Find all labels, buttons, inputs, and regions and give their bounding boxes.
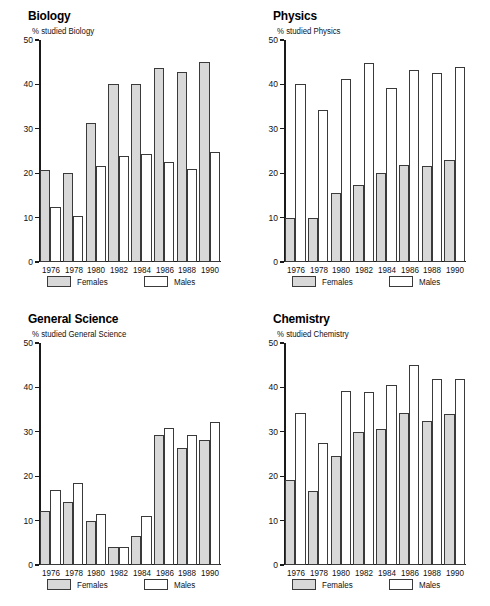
panel-general-science: General Science % studied General Scienc…: [0, 303, 245, 606]
bar-females-1976: [40, 170, 50, 262]
legend-item-females: Females: [47, 579, 110, 590]
y-tick-label: 0: [28, 561, 33, 570]
bar-males-1976: [50, 207, 60, 263]
legend-swatch-females-icon: [47, 579, 71, 590]
bar-females-1988: [177, 448, 187, 565]
legend-physics: Females Males: [292, 276, 441, 287]
bar-females-1976: [285, 480, 295, 565]
x-tick-label-1984: 1984: [133, 266, 151, 275]
chart-subtitle-biology: % studied Biology: [32, 26, 94, 36]
x-tick-label-1988: 1988: [178, 266, 196, 275]
y-tick-label: 40: [269, 383, 278, 392]
y-tick-label: 40: [24, 383, 33, 392]
bar-group-1986: [153, 40, 176, 262]
bar-males-1988: [432, 73, 442, 262]
panel-physics: Physics % studied Physics 19761978198019…: [245, 0, 490, 303]
y-tick-label: 20: [269, 169, 278, 178]
bar-females-1982: [108, 84, 118, 262]
bar-males-1986: [164, 162, 174, 262]
bar-group-1986: [398, 40, 421, 262]
legend-swatch-females-icon: [292, 579, 316, 590]
bar-males-1986: [164, 428, 174, 565]
bar-males-1980: [341, 391, 351, 565]
bar-males-1984: [386, 385, 396, 565]
y-tick-mark: [35, 564, 39, 565]
bar-group-1982: [352, 40, 375, 262]
x-tick-label-1988: 1988: [178, 569, 196, 578]
bar-group-1984: [130, 343, 153, 565]
y-tick-mark: [35, 342, 39, 343]
bar-males-1976: [295, 84, 305, 262]
bar-males-1978: [318, 110, 328, 262]
x-tick-label-1978: 1978: [65, 569, 83, 578]
bar-females-1986: [399, 165, 409, 262]
x-tick-label-1988: 1988: [423, 569, 441, 578]
bar-males-1988: [187, 169, 197, 262]
y-tick-label: 30: [269, 125, 278, 134]
x-tick-label-1982: 1982: [355, 569, 373, 578]
legend-item-males: Males: [144, 276, 197, 287]
y-tick-mark: [280, 128, 284, 129]
x-tick-label-1976: 1976: [42, 569, 60, 578]
bar-females-1980: [86, 123, 96, 262]
x-tick-label-1976: 1976: [42, 266, 60, 275]
y-tick-mark: [280, 520, 284, 521]
plot-area-biology: 19761978198019821984198619881990 0102030…: [39, 40, 221, 262]
bar-females-1976: [40, 511, 50, 565]
figure-page: Biology % studied Biology 19761978198019…: [0, 0, 490, 606]
legend-label-males: Males: [419, 277, 440, 287]
bar-females-1976: [285, 218, 295, 262]
bar-females-1990: [199, 440, 209, 565]
bar-group-1978: [62, 40, 85, 262]
plot-area-physics: 19761978198019821984198619881990 0102030…: [284, 40, 466, 262]
bar-males-1982: [119, 156, 129, 262]
panel-biology: Biology % studied Biology 19761978198019…: [0, 0, 245, 303]
bar-males-1980: [96, 166, 106, 262]
bar-group-1990: [198, 343, 221, 565]
bar-females-1982: [108, 547, 118, 565]
chart-title-general-science: General Science: [28, 311, 118, 326]
bar-group-1980: [85, 40, 108, 262]
bar-group-1980: [330, 343, 353, 565]
y-tick-mark: [280, 261, 284, 262]
bar-group-1980: [330, 40, 353, 262]
legend-item-females: Females: [47, 276, 110, 287]
legend-item-males: Males: [389, 276, 442, 287]
bar-females-1984: [131, 536, 141, 565]
legend-biology: Females Males: [47, 276, 196, 287]
legend-item-females: Females: [292, 579, 355, 590]
bars-biology: [39, 40, 221, 262]
legend-label-males: Males: [174, 277, 195, 287]
y-tick-label: 30: [24, 125, 33, 134]
bar-males-1982: [119, 547, 129, 565]
x-tick-label-1980: 1980: [332, 569, 350, 578]
x-tick-label-1980: 1980: [87, 569, 105, 578]
x-tick-label-1988: 1988: [423, 266, 441, 275]
y-tick-mark: [35, 217, 39, 218]
y-tick-label: 30: [24, 428, 33, 437]
y-tick-mark: [280, 387, 284, 388]
bar-males-1984: [386, 88, 396, 262]
legend-label-females: Females: [322, 580, 353, 590]
bar-group-1978: [307, 40, 330, 262]
x-tick-labels-physics: 19761978198019821984198619881990: [284, 262, 466, 276]
bar-females-1988: [177, 72, 187, 262]
bar-group-1986: [153, 343, 176, 565]
legend-chemistry: Females Males: [292, 579, 441, 590]
bar-males-1988: [432, 379, 442, 565]
bar-group-1988: [421, 343, 444, 565]
x-tick-label-1978: 1978: [310, 266, 328, 275]
bar-females-1986: [154, 435, 164, 565]
bar-group-1988: [176, 343, 199, 565]
legend-general-science: Females Males: [47, 579, 196, 590]
x-tick-label-1990: 1990: [446, 569, 464, 578]
bar-males-1976: [50, 490, 60, 565]
y-tick-mark: [280, 84, 284, 85]
y-tick-mark: [35, 261, 39, 262]
y-tick-label: 10: [24, 213, 33, 222]
bar-males-1978: [73, 216, 83, 262]
legend-label-males: Males: [419, 580, 440, 590]
bar-group-1990: [198, 40, 221, 262]
bar-group-1978: [307, 343, 330, 565]
chart-title-biology: Biology: [28, 8, 71, 23]
